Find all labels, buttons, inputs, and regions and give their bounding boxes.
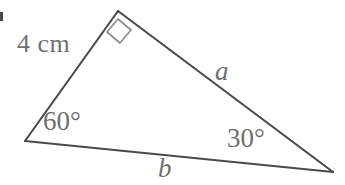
angle-label-60: 60° [43,108,81,135]
geometry-figure: 4 cm 60° 30° a b [0,0,345,185]
angle-label-30: 30° [227,125,265,152]
triangle-edges [25,11,333,172]
triangle-edge-b [25,141,333,172]
side-length-label-4cm: 4 cm [17,31,70,57]
triangle-drawing [0,0,345,185]
scan-edge-artifact [0,12,3,21]
triangle-edge-a [118,11,333,172]
side-label-b: b [158,155,172,182]
side-label-a: a [215,58,229,85]
